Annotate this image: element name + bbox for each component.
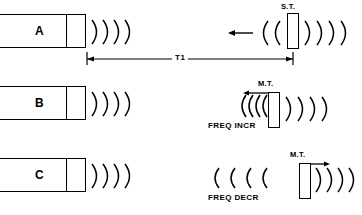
transmitted-wave-arcs-c	[314, 165, 362, 195]
frequency-note-c: FREQ DECR	[208, 194, 259, 202]
transmitted-wave-arcs-a	[303, 18, 355, 48]
target-label-a: S.T.	[281, 3, 295, 11]
transmitter-label-b: B	[0, 96, 85, 110]
dimension-label-t1: T1	[172, 54, 188, 62]
emitted-wave-arcs-c	[90, 160, 140, 192]
diagram-row-c: C M.T.	[0, 144, 362, 215]
transmitter-box-b: B	[0, 86, 86, 120]
motion-arrow-left-a	[228, 28, 254, 38]
emitted-wave-arcs-b	[90, 88, 140, 120]
transmitter-aperture-divider-b	[66, 87, 67, 119]
target-bar-b	[268, 92, 280, 128]
target-bar-c	[299, 163, 311, 199]
transmitter-label-a: A	[0, 24, 85, 38]
diagram-row-a: A S.T.	[0, 0, 362, 72]
emitted-wave-arcs-a	[90, 16, 140, 48]
target-label-b: M.T.	[258, 80, 273, 88]
transmitter-aperture-divider-c	[66, 159, 67, 191]
transmitter-box-c: C	[0, 158, 86, 192]
target-label-c: M.T.	[290, 151, 305, 159]
doppler-radar-diagram: A S.T.	[0, 0, 362, 215]
transmitter-label-c: C	[0, 168, 85, 182]
motion-arrow-left-b	[243, 89, 269, 97]
transmitter-aperture-divider-a	[66, 15, 67, 47]
frequency-note-b: FREQ INCR	[208, 122, 256, 130]
diagram-row-b: B M.T.	[0, 72, 362, 144]
reflected-wave-arcs-a	[258, 18, 286, 48]
transmitted-wave-arcs-b	[284, 94, 336, 124]
reflected-wave-arcs-c	[210, 164, 272, 192]
transmitter-box-a: A	[0, 14, 86, 48]
target-bar-a	[287, 13, 299, 49]
dimension-line-t1: T1	[84, 50, 296, 66]
